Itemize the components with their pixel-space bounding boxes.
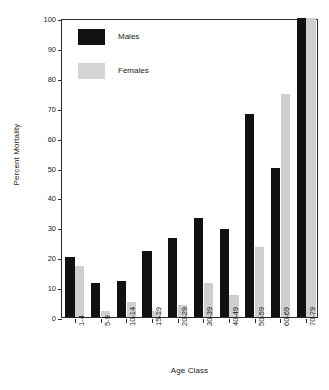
x-tick-label: 40-49 [232, 307, 240, 326]
bar-male-5-9 [91, 283, 100, 317]
bar-male-10-14 [117, 281, 126, 317]
legend-label-females: Females [118, 67, 149, 75]
bar-male-20-29 [168, 238, 177, 317]
y-tick-label: 90 [36, 46, 56, 54]
x-tick-mark [152, 319, 153, 323]
x-tick-label: 20-29 [181, 307, 189, 326]
legend-label-males: Males [118, 33, 139, 41]
bar-male-60-69 [271, 168, 280, 318]
bar-male-1-4 [65, 257, 74, 317]
x-tick-label: 60-69 [283, 307, 291, 326]
y-tick-label: 40 [36, 195, 56, 203]
y-tick-mark [58, 319, 62, 320]
x-tick-label: 5-9 [104, 315, 112, 326]
bar-female-1-4 [75, 266, 84, 317]
bar-male-50-59 [245, 114, 254, 317]
bar-male-40-49 [220, 229, 229, 317]
y-tick-label: 10 [36, 285, 56, 293]
bar-female-60-69 [281, 94, 290, 317]
x-tick-label: 50-59 [258, 307, 266, 326]
y-tick-label: 100 [36, 16, 56, 24]
x-tick-label: 15-19 [155, 307, 163, 326]
x-tick-label: 30-39 [206, 307, 214, 326]
x-tick-mark [255, 319, 256, 323]
x-tick-mark [306, 319, 307, 323]
y-tick-label: 70 [36, 106, 56, 114]
x-axis-title: Age Class [61, 366, 318, 375]
y-tick-label: 0 [36, 315, 56, 323]
y-tick-label: 50 [36, 166, 56, 174]
bar-male-30-39 [194, 218, 203, 317]
y-axis-title: Percent Mortality [12, 95, 21, 215]
female-swatch-icon [78, 63, 105, 79]
x-tick-label: 70-79 [309, 307, 317, 326]
x-tick-mark [178, 319, 179, 323]
bar-male-70-79 [297, 18, 306, 317]
x-tick-mark [75, 319, 76, 323]
x-tick-label: 1-4 [78, 315, 86, 326]
bar-male-15-19 [142, 251, 151, 317]
plot-area: 0102030405060708090100 1-45-910-1415-192… [61, 19, 318, 318]
y-tick-label: 80 [36, 76, 56, 84]
y-tick-label: 60 [36, 136, 56, 144]
y-tick-label: 30 [36, 225, 56, 233]
y-tick-label: 20 [36, 255, 56, 263]
bar-female-70-79 [306, 18, 315, 317]
chart-figure: Percent Mortality 0102030405060708090100… [0, 0, 329, 390]
x-tick-mark [229, 319, 230, 323]
x-tick-mark [101, 319, 102, 323]
male-swatch-icon [78, 29, 105, 45]
x-tick-label: 10-14 [129, 307, 137, 326]
